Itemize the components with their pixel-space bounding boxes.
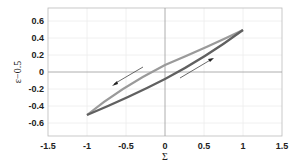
- svg-text:0.2: 0.2: [31, 50, 44, 60]
- y-tick-labels: 0.6 0.4 0.2 0 -0.2 -0.4 -0.6: [28, 16, 44, 128]
- x-tick-labels: -1.5 -1 -0.5 0 0.5 1 1.5: [40, 141, 288, 151]
- svg-text:0.4: 0.4: [31, 33, 44, 43]
- svg-text:-1.5: -1.5: [40, 141, 56, 151]
- svg-text:1.5: 1.5: [276, 141, 289, 151]
- svg-text:0: 0: [39, 67, 44, 77]
- hysteresis-chart: -1.5 -1 -0.5 0 0.5 1 1.5 0.6 0.4 0.2 0 -…: [0, 0, 298, 163]
- svg-text:-0.4: -0.4: [28, 101, 44, 111]
- svg-text:-0.6: -0.6: [28, 118, 44, 128]
- svg-text:0.6: 0.6: [31, 16, 44, 26]
- svg-text:0: 0: [162, 141, 167, 151]
- svg-text:-0.5: -0.5: [118, 141, 134, 151]
- arrow-down-left-icon: [112, 67, 143, 86]
- x-axis-label: Σ: [162, 151, 168, 162]
- svg-text:1: 1: [240, 141, 245, 151]
- y-axis-label: ε−0.5: [12, 61, 23, 83]
- svg-text:-1: -1: [83, 141, 91, 151]
- svg-text:-0.2: -0.2: [28, 84, 44, 94]
- svg-text:0.5: 0.5: [198, 141, 211, 151]
